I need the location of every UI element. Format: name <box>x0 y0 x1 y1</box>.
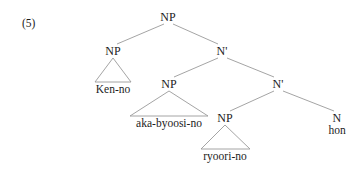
tree-branch <box>227 58 274 77</box>
tree-lines-svg <box>0 0 362 175</box>
tree-branch <box>174 58 218 77</box>
node-label-np-aka: NP <box>161 78 177 90</box>
node-label-np-ken: NP <box>105 45 121 57</box>
tree-triangle <box>130 91 208 116</box>
triangle-group <box>95 58 250 149</box>
terminal-label-ryoori-no: ryoori-no <box>203 150 246 162</box>
tree-branch <box>117 24 164 44</box>
branch-group <box>117 24 334 111</box>
node-label-np-ryoori: NP <box>217 112 233 124</box>
terminal-label-hon: hon <box>328 124 345 136</box>
terminal-label-ken-no: Ken-no <box>96 83 131 95</box>
tree-triangle <box>95 58 131 82</box>
syntax-tree-figure: (5) NPNPN'NPN'NPN Ken-noaka-byoosi-noryo… <box>0 0 362 175</box>
terminal-label-aka-byoosi-no: aka-byoosi-no <box>136 117 202 129</box>
node-label-n-hon: N <box>333 112 342 124</box>
node-label-nbar-2: N' <box>272 78 283 90</box>
tree-branch <box>230 91 274 111</box>
node-label-np-root: NP <box>160 11 176 23</box>
node-label-nbar-1: N' <box>216 45 227 57</box>
tree-branch <box>173 24 218 44</box>
tree-triangle <box>201 125 250 149</box>
tree-branch <box>283 91 334 111</box>
